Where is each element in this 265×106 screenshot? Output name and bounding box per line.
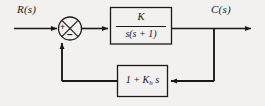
summing-junction-minus-sign: − <box>67 30 73 40</box>
forward-block-numerator: K <box>110 12 172 23</box>
feedback-expression-prefix: 1 + <box>126 74 143 85</box>
summing-junction-plus-sign: + <box>60 23 65 32</box>
feedback-block-expression: 1 + Kh s <box>117 75 168 87</box>
block-diagram: R(s) C(s) + − K s(s + 1) 1 + Kh s <box>0 0 265 106</box>
input-signal-label: R(s) <box>17 4 36 15</box>
output-signal-label: C(s) <box>211 4 231 15</box>
feedback-expression-suffix: s <box>153 74 159 85</box>
forward-block-denominator: s(s + 1) <box>110 29 172 39</box>
